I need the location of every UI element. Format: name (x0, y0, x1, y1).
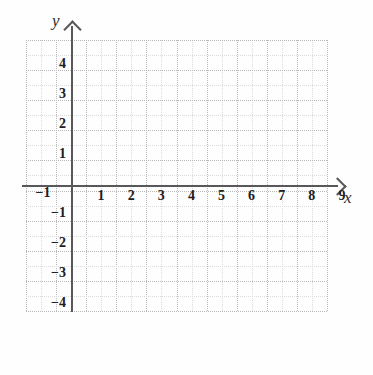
y-tick-label-3: 3 (40, 86, 66, 102)
y-tick-label-1: 1 (40, 146, 66, 162)
y-tick-label-neg1: −1 (40, 205, 66, 221)
x-tick-label-2: 2 (121, 188, 141, 204)
y-tick-label-2: 2 (40, 116, 66, 132)
x-tick-label-3: 3 (151, 188, 171, 204)
x-tick-label-8: 8 (302, 188, 322, 204)
y-axis-line (71, 26, 73, 312)
x-tick-label-4: 4 (181, 188, 201, 204)
y-tick-label-neg4: −4 (40, 295, 66, 311)
x-tick-label-9: 9 (332, 188, 352, 204)
y-tick-label-neg3: −3 (40, 265, 66, 281)
x-tick-label-neg1: −1 (31, 185, 55, 201)
gridline-vertical (327, 40, 328, 311)
y-axis-arrow-icon (63, 20, 81, 38)
x-tick-label-1: 1 (91, 188, 111, 204)
y-tick-label-neg2: −2 (40, 235, 66, 251)
x-tick-label-5: 5 (212, 188, 232, 204)
y-axis-label: y (52, 11, 60, 31)
y-tick-label-4: 4 (40, 56, 66, 72)
x-axis-line (22, 185, 338, 187)
x-tick-label-6: 6 (242, 188, 262, 204)
coordinate-grid-figure: y x −1 1234567894321−1−2−3−4 (0, 0, 373, 375)
x-tick-label-7: 7 (272, 188, 292, 204)
